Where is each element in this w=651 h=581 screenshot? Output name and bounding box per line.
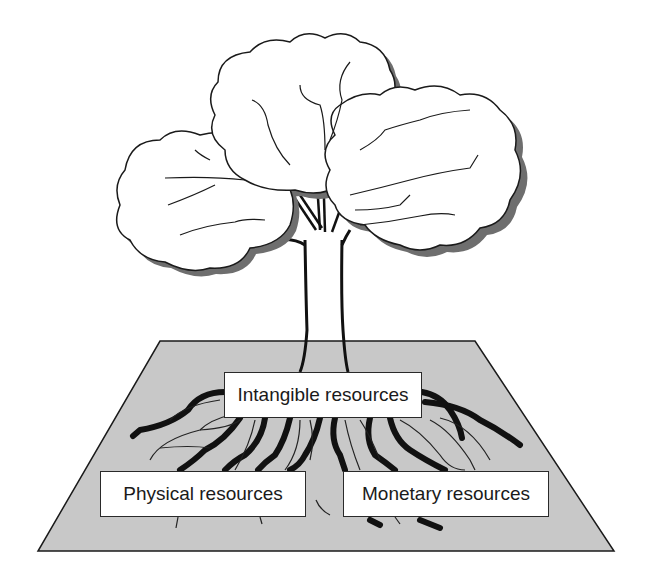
physical-resources-label: Physical resources bbox=[100, 471, 306, 517]
monetary-resources-label: Monetary resources bbox=[343, 471, 549, 517]
intangible-resources-label: Intangible resources bbox=[224, 372, 422, 418]
canopy bbox=[117, 34, 521, 271]
resource-tree-diagram bbox=[0, 0, 651, 581]
